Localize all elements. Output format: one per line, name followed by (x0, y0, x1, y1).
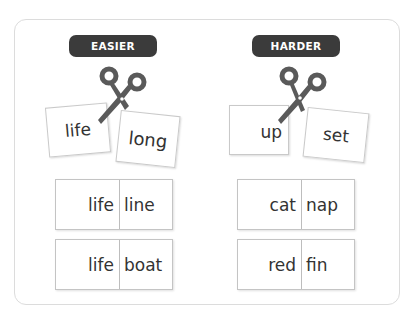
pair-left-word: cat (238, 180, 302, 229)
pair-right-word: nap (302, 180, 354, 229)
harder-pair-1: cat nap (237, 179, 355, 230)
harder-pair-2: red fin (237, 239, 355, 290)
pair-left-word: red (238, 240, 302, 289)
pair-left-word: life (56, 240, 120, 289)
pair-right-word: line (120, 180, 172, 229)
easier-pair-1: life line (55, 179, 173, 230)
easier-badge: EASIER (69, 35, 157, 57)
scissors-icon (95, 66, 153, 126)
easier-pair-2: life boat (55, 239, 173, 290)
pair-right-word: fin (302, 240, 354, 289)
harder-badge: HARDER (252, 35, 340, 57)
pair-left-word: life (56, 180, 120, 229)
pair-right-word: boat (120, 240, 172, 289)
scissors-icon (275, 66, 333, 126)
